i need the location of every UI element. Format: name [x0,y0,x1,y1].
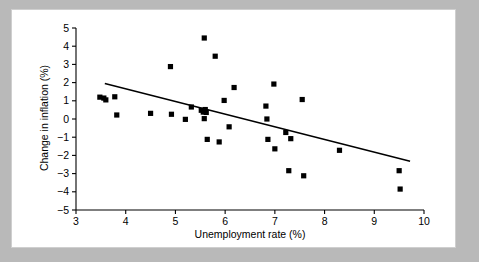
data-point [103,97,108,102]
data-point [231,85,236,90]
trendline [105,84,410,162]
y-tick-label: 1 [63,94,69,106]
y-axis-title: Change in inflation (%) [38,65,50,171]
data-point [205,137,210,142]
data-points [97,35,402,191]
data-point [222,98,227,103]
data-point [263,103,268,108]
y-tick-label: −1 [57,131,69,143]
y-tick-label: 3 [63,58,69,70]
figure-frame: −5−4−3−2−1012345 345678910 Unemployment … [0,0,479,262]
y-tick-label: −2 [57,149,69,161]
regression-line [105,84,410,162]
x-tick-label: 8 [322,215,328,227]
data-point [217,139,222,144]
data-point [300,97,305,102]
y-tick-label: −5 [57,204,69,216]
data-point [168,64,173,69]
y-tick-label: 2 [63,76,69,88]
x-tick-label: 4 [123,215,129,227]
data-point [204,110,209,115]
data-point [397,168,402,173]
y-tick-label: −3 [57,167,69,179]
data-point [148,111,153,116]
scatter-chart: −5−4−3−2−1012345 345678910 Unemployment … [0,0,479,262]
data-point [301,173,306,178]
x-tick-label: 7 [272,215,278,227]
x-axis: 345678910 [73,210,430,227]
data-point [183,117,188,122]
x-tick-label: 6 [222,215,228,227]
x-tick-label: 5 [173,215,179,227]
x-tick-label: 3 [73,215,79,227]
data-point [264,116,269,121]
data-point [202,116,207,121]
data-point [398,186,403,191]
data-point [202,35,207,40]
data-point [265,137,270,142]
data-point [213,54,218,59]
data-point [169,112,174,117]
data-point [288,136,293,141]
y-tick-label: 0 [63,113,69,125]
x-axis-title: Unemployment rate (%) [195,228,306,240]
data-point [112,94,117,99]
y-tick-label: −4 [57,185,69,197]
y-axis: −5−4−3−2−1012345 [57,22,76,216]
data-point [272,146,277,151]
y-tick-label: 4 [63,40,69,52]
y-tick-label: 5 [63,22,69,34]
x-tick-label: 9 [371,215,377,227]
data-point [337,148,342,153]
data-point [227,124,232,129]
data-point [271,81,276,86]
data-point [286,168,291,173]
x-tick-label: 10 [418,215,430,227]
data-point [114,112,119,117]
